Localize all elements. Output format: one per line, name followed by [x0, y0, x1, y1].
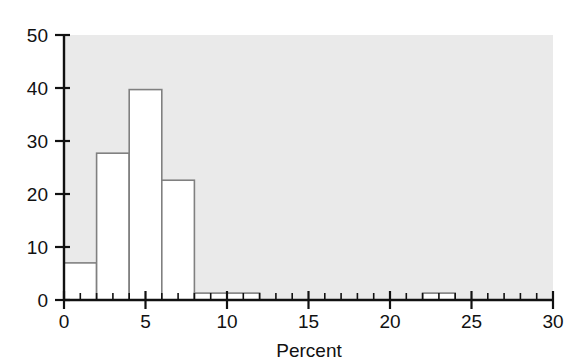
- x-axis-tick-label: 10: [216, 311, 237, 332]
- x-axis-tick-label: 15: [298, 311, 319, 332]
- y-axis-tick-label: 20: [27, 184, 48, 205]
- x-axis-title: Percent: [276, 340, 342, 361]
- histogram-bar: [162, 180, 195, 300]
- x-axis-tick-label: 20: [379, 311, 400, 332]
- y-axis-tick-label: 40: [27, 78, 48, 99]
- histogram-bar: [97, 153, 130, 300]
- x-axis-tick-label: 30: [542, 311, 563, 332]
- x-axis-tick-label: 5: [140, 311, 151, 332]
- histogram-plot: 051015202530 01020304050 Percent: [0, 0, 572, 363]
- histogram-figure: 051015202530 01020304050 Percent: [0, 0, 572, 363]
- x-axis-tick-label: 0: [59, 311, 70, 332]
- y-axis-tick-label: 50: [27, 25, 48, 46]
- y-axis-tick-label: 30: [27, 131, 48, 152]
- y-axis-tick-label: 10: [27, 237, 48, 258]
- histogram-bar: [129, 90, 162, 300]
- x-axis-tick-label: 25: [461, 311, 482, 332]
- y-axis-tick-label: 0: [37, 290, 48, 311]
